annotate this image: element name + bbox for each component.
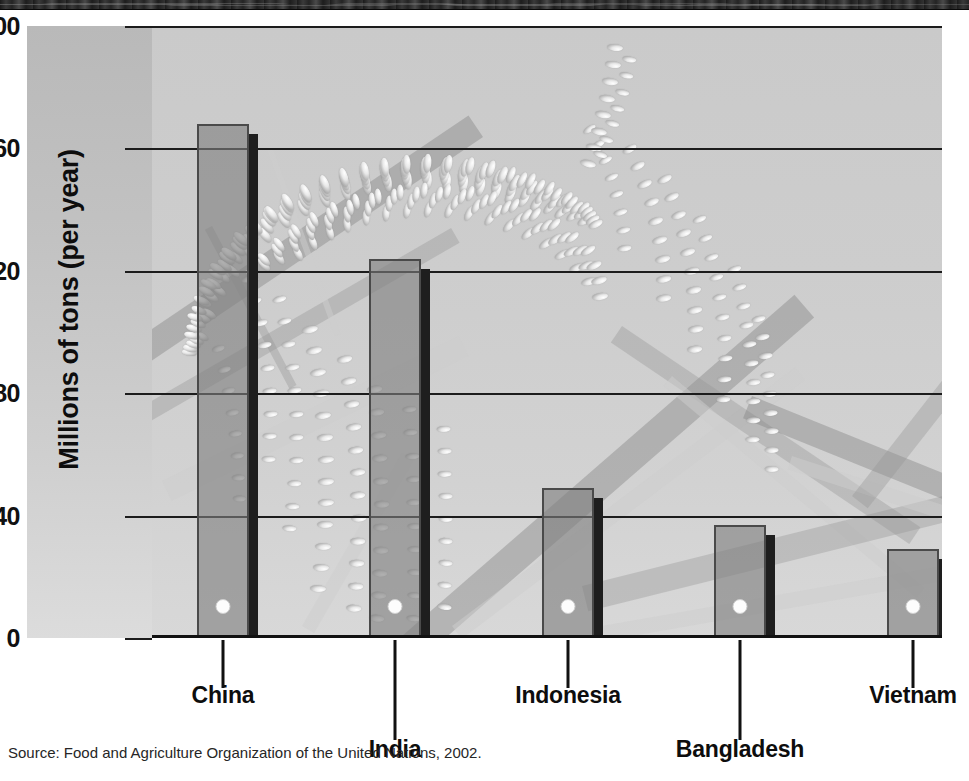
rice-grain — [306, 346, 323, 356]
rice-grain — [289, 457, 304, 464]
rice-grain — [313, 564, 329, 572]
rice-grain — [261, 364, 275, 372]
rice-grain — [437, 426, 451, 432]
y-axis-tick — [125, 516, 152, 518]
rice-grain — [438, 471, 452, 477]
y-axis-tick-label: 0 — [7, 624, 20, 653]
rice-grain — [731, 283, 746, 293]
rice-grain — [350, 538, 365, 545]
y-axis-tick-label: 40 — [0, 501, 20, 530]
rice-grain — [348, 446, 364, 454]
y-axis-tick-label: 200 — [0, 12, 20, 41]
callout-leader-line — [567, 640, 570, 688]
rice-grain — [438, 582, 452, 589]
callout-leader-line — [912, 640, 915, 688]
rice-grain — [613, 207, 629, 217]
rice-grain — [402, 155, 410, 174]
gridline — [152, 393, 942, 395]
gridline — [152, 26, 942, 28]
rice-grain — [438, 448, 452, 454]
rice-grain — [655, 294, 671, 302]
rice-grain — [609, 189, 625, 199]
rice-grain — [616, 244, 631, 252]
decorative-header-band — [0, 0, 969, 10]
rice-grain — [349, 469, 365, 477]
source-note: Source: Food and Agriculture Organizatio… — [8, 744, 482, 761]
rice-grain — [698, 233, 714, 243]
rice-grain — [318, 477, 334, 485]
rice-grain — [745, 378, 760, 386]
bar-indonesia[interactable] — [542, 488, 594, 638]
callout-dot — [561, 599, 576, 614]
chart-figure: 04080120160200 Millions of tons (per yea… — [27, 26, 942, 638]
bar-india[interactable] — [369, 259, 421, 638]
rice-grain — [602, 77, 619, 86]
rice-grain — [317, 499, 333, 506]
bar-vietnam[interactable] — [887, 549, 939, 638]
rice-grain — [348, 583, 363, 590]
y-axis-tick — [125, 393, 152, 395]
rice-grain — [271, 294, 286, 304]
rice-grain — [592, 149, 608, 159]
rice-grain — [315, 542, 331, 549]
rice-grain — [264, 410, 278, 417]
rice-grain — [337, 355, 353, 364]
rice-grain — [350, 492, 365, 499]
rice-grain — [618, 71, 633, 80]
rice-grain — [615, 225, 630, 234]
rice-grain — [598, 93, 615, 103]
rice-grain — [438, 560, 452, 567]
bar-bangladesh[interactable] — [714, 525, 766, 638]
gridline — [152, 271, 942, 273]
rice-grain — [340, 377, 356, 386]
rice-grain — [630, 160, 647, 172]
rice-grain — [716, 334, 731, 342]
rice-grain — [712, 293, 727, 302]
rice-grain — [592, 292, 609, 301]
y-axis-tick — [125, 26, 152, 28]
rice-grain — [317, 455, 333, 463]
rice-grain — [285, 503, 300, 510]
rice-grain — [579, 159, 596, 170]
rice-grain — [714, 313, 729, 322]
rice-grain — [703, 253, 719, 263]
rice-grain — [761, 371, 775, 378]
rice-grain — [687, 345, 703, 353]
y-axis-tick-label: 80 — [0, 379, 20, 408]
rice-grain — [604, 171, 620, 182]
rice-grain — [622, 55, 637, 64]
rice-grain — [610, 103, 625, 113]
rice-grain — [765, 466, 779, 472]
rice-grain — [309, 367, 326, 377]
rice-grain — [317, 521, 333, 528]
rice-grain — [346, 423, 362, 431]
callout-dot — [388, 599, 403, 614]
rice-grain — [282, 525, 297, 532]
rice-grain — [419, 182, 428, 199]
rice-grain — [708, 273, 723, 283]
rice-grain — [758, 352, 772, 360]
y-axis-tick-label: 160 — [0, 134, 20, 163]
y-axis-strip — [27, 26, 152, 638]
rice-grain — [643, 197, 660, 208]
rice-grain — [670, 209, 687, 220]
callout-dot — [906, 599, 921, 614]
x-axis-category-labels: ChinaIndiaIndonesiaBangladeshVietnam — [27, 638, 942, 738]
rice-grain — [614, 87, 629, 96]
callout-dot — [733, 599, 748, 614]
rice-grain — [595, 110, 612, 120]
rice-grain — [675, 228, 691, 239]
rice-grain — [652, 235, 668, 245]
callout-leader-line — [739, 640, 742, 740]
rice-grain — [637, 178, 654, 190]
rice-grain — [439, 538, 453, 545]
rice-grain — [289, 433, 304, 440]
plot-area — [152, 26, 942, 638]
y-axis-tick-label: 120 — [0, 256, 20, 285]
rice-grain — [745, 436, 759, 442]
bar-china[interactable] — [197, 124, 249, 638]
rice-grain — [687, 325, 703, 333]
rice-grain — [656, 173, 673, 185]
y-axis-tick — [125, 271, 152, 273]
x-axis-label-bangladesh: Bangladesh — [676, 736, 804, 763]
